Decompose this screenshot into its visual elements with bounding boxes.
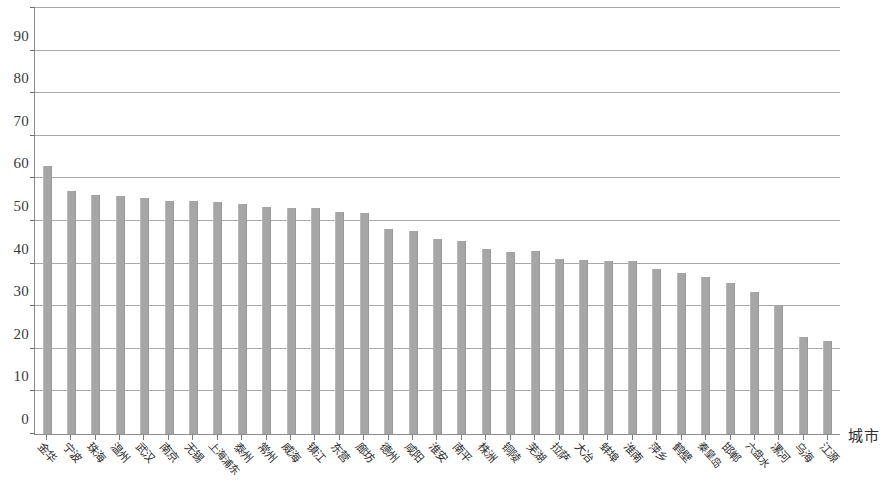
bar — [140, 198, 149, 434]
bar-slot — [450, 8, 474, 434]
x-label-slot: 江源 — [816, 438, 840, 496]
x-label-slot: 温州 — [107, 438, 131, 496]
x-label-slot: 萍乡 — [645, 438, 669, 496]
y-axis-tick — [30, 135, 35, 136]
x-axis-category-label: 东营 — [328, 440, 351, 464]
bar-slot — [572, 8, 596, 434]
x-axis-category-label: 咸阳 — [402, 440, 425, 464]
x-axis-category-label: 温州 — [109, 440, 132, 464]
y-axis-tick-label: 80 — [13, 71, 29, 86]
x-axis-category-label: 江源 — [817, 440, 840, 464]
bar-slot — [669, 8, 693, 434]
x-axis-category-label: 珠海 — [84, 440, 107, 464]
x-axis-category-label: 武汉 — [133, 440, 156, 464]
x-axis-category-label: 萍乡 — [646, 440, 669, 464]
bar-slot — [767, 8, 791, 434]
x-label-slot: 武汉 — [132, 438, 156, 496]
bar-slot — [816, 8, 840, 434]
bar-slot — [352, 8, 376, 434]
y-axis-tick — [30, 390, 35, 391]
x-axis-category-label: 淮南 — [621, 440, 644, 464]
bar — [799, 337, 808, 434]
bar — [531, 251, 540, 434]
bar — [726, 283, 735, 434]
bar — [384, 229, 393, 434]
y-axis-tick-label: 40 — [13, 241, 29, 256]
bar — [482, 249, 491, 434]
bar — [750, 292, 759, 434]
bar-slot — [328, 8, 352, 434]
x-label-slot: 铜陵 — [498, 438, 522, 496]
bar — [360, 213, 369, 434]
x-label-slot: 咸阳 — [400, 438, 424, 496]
bar — [774, 305, 783, 434]
bar-slot — [547, 8, 571, 434]
bar-slot — [230, 8, 254, 434]
x-label-slot: 漯河 — [767, 438, 791, 496]
bar — [652, 269, 661, 434]
bar — [409, 231, 418, 434]
bar-slot — [523, 8, 547, 434]
bar — [701, 277, 710, 434]
x-axis-category-label: 大冶 — [573, 440, 596, 464]
bars-group — [35, 8, 840, 434]
bar — [555, 259, 564, 434]
bar — [457, 241, 466, 434]
bar — [67, 191, 76, 434]
y-axis-tick — [30, 92, 35, 93]
x-axis-category-label: 廊坊 — [353, 440, 376, 464]
bar-slot — [620, 8, 644, 434]
y-axis-tick — [30, 50, 35, 51]
bar-slot — [206, 8, 230, 434]
x-axis-category-label: 常州 — [255, 440, 278, 464]
x-axis-category-label: 鹤壁 — [670, 440, 693, 464]
bar-slot — [498, 8, 522, 434]
x-axis-category-label: 金华 — [35, 440, 58, 464]
x-label-slot: 泰州 — [229, 438, 253, 496]
x-label-slot: 金华 — [34, 438, 58, 496]
y-axis-tick-label: 30 — [13, 284, 29, 299]
bar-slot — [35, 8, 59, 434]
x-axis-category-labels: 金华宁波珠海温州武汉南京无锡上海浦东泰州常州威海镇江东营廊坊德州咸阳淮安南平株洲… — [34, 438, 840, 496]
x-label-slot: 拉萨 — [547, 438, 571, 496]
x-label-slot: 常州 — [254, 438, 278, 496]
x-axis-category-label: 淮安 — [426, 440, 449, 464]
y-axis-tick — [30, 7, 35, 8]
x-axis-category-label: 漯河 — [768, 440, 791, 464]
x-label-slot: 蚌埠 — [596, 438, 620, 496]
x-axis-category-label: 芜湖 — [524, 440, 547, 464]
x-label-slot: 大冶 — [571, 438, 595, 496]
bar — [238, 204, 247, 434]
bar — [604, 261, 613, 434]
bar — [91, 195, 100, 434]
x-label-slot: 德州 — [376, 438, 400, 496]
x-label-slot: 南平 — [449, 438, 473, 496]
bar-slot — [791, 8, 815, 434]
bar-slot — [596, 8, 620, 434]
bar-slot — [108, 8, 132, 434]
bar — [287, 208, 296, 434]
bar-slot — [694, 8, 718, 434]
y-axis-tick — [30, 305, 35, 306]
x-label-slot: 东营 — [327, 438, 351, 496]
bar-slot — [718, 8, 742, 434]
x-axis-category-label: 南京 — [157, 440, 180, 464]
y-axis-tick-label: 10 — [13, 369, 29, 384]
x-axis-category-label: 乌海 — [792, 440, 815, 464]
bar-slot — [742, 8, 766, 434]
bar-chart: 0102030405060708090100 金华宁波珠海温州武汉南京无锡上海浦… — [0, 0, 895, 497]
y-axis-tick-label: 20 — [13, 326, 29, 341]
bar — [43, 166, 52, 434]
x-label-slot: 邯郸 — [718, 438, 742, 496]
x-axis-category-label: 宁波 — [60, 440, 83, 464]
y-axis-tick — [30, 433, 35, 434]
y-axis-tick-label: 0 — [21, 412, 29, 427]
bar — [579, 260, 588, 434]
x-axis-category-label: 株洲 — [475, 440, 498, 464]
plot-area: 0102030405060708090100 — [34, 8, 840, 435]
bar-slot — [303, 8, 327, 434]
bar — [116, 196, 125, 434]
x-axis-category-label: 镇江 — [304, 440, 327, 464]
bar-slot — [376, 8, 400, 434]
x-label-slot: 鹤壁 — [669, 438, 693, 496]
